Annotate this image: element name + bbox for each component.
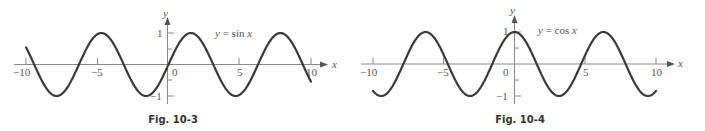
function-label-eq: = [543,24,555,36]
x-tick-label: −5 [437,66,449,78]
y-tick-label: −1 [496,90,508,102]
y-axis-label: y [509,4,515,16]
x-tick-label: −5 [91,66,103,78]
function-label: y = cos x [537,24,577,36]
chart-cos: x −10 −5 0 5 10 y 1 −1 y = cos x Fig. 10… [360,4,683,125]
function-label: y = sin x [214,27,252,39]
x-tick-label: −10 [13,66,31,78]
y-tick-label: 1 [157,27,163,39]
x-tick-label: 10 [651,66,663,78]
function-label-var: x [571,24,577,36]
function-label-var: x [246,27,252,39]
function-label-eq: = [220,27,232,39]
y-axis-label: y [162,7,168,19]
function-label-func: sin [232,27,245,39]
y-tick-label: −1 [150,90,162,102]
x-tick-label: 5 [237,66,243,78]
x-tick-label: −10 [360,66,378,78]
chart-sin: x −10 −5 0 5 10 y 1 −1 y = sin x Fig. 10… [13,7,337,125]
x-axis-arrow-icon [667,61,675,67]
x-axis-label: x [677,57,683,69]
y-axis-arrow-icon [512,15,518,23]
function-label-func: cos [555,24,570,36]
x-axis-arrow-icon [320,62,328,68]
x-axis-label: x [331,58,337,70]
x-tick-label: 0 [172,66,178,78]
figure-caption: Fig. 10-4 [495,114,545,125]
x-tick-label: 5 [583,66,589,78]
figure-caption: Fig. 10-3 [148,114,198,125]
x-tick-label: 0 [503,66,509,78]
figure-canvas: x −10 −5 0 5 10 y 1 −1 y = sin x Fig. 10… [0,0,705,131]
